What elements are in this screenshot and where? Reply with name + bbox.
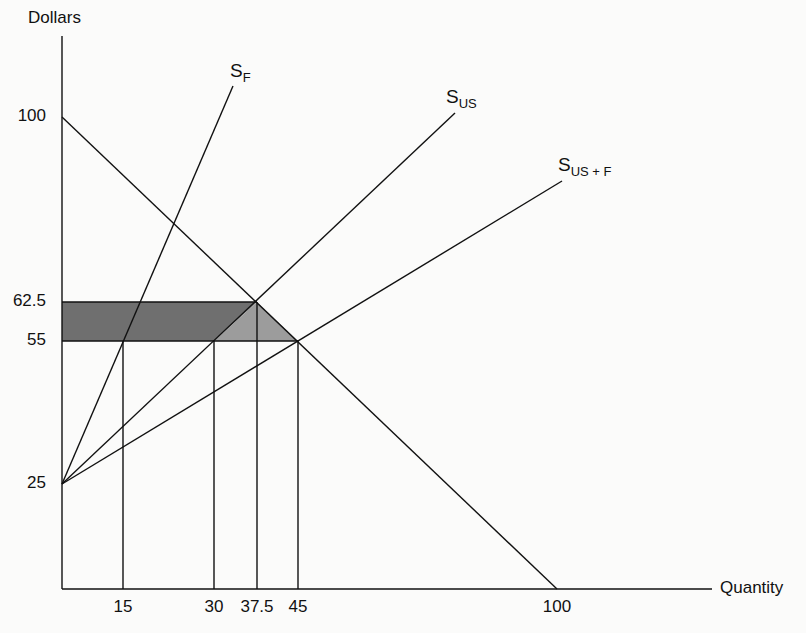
supply-us-foreign-label: SUS + F [558,154,612,179]
supply-us-foreign-label-main: S [558,154,571,175]
y-tick-25: 25 [0,473,46,493]
supply-foreign-label: SF [230,60,251,85]
supply-us-line [62,113,455,484]
y-tick-100: 100 [0,106,46,126]
supply-foreign-line [62,86,233,484]
demand-line [62,117,557,589]
chart-canvas [0,0,806,633]
x-tick-15: 15 [98,597,148,617]
supply-us-label: SUS [446,86,477,111]
y-tick-55: 55 [0,330,46,350]
supply-foreign-label-main: S [230,60,243,81]
y-tick-62-5: 62.5 [0,291,46,311]
x-tick-100: 100 [532,597,582,617]
x-tick-45: 45 [273,597,323,617]
supply-us-foreign-label-sub: US + F [571,164,612,179]
supply-us-label-main: S [446,86,459,107]
x-axis-label: Quantity [720,578,783,598]
supply-foreign-label-sub: F [243,70,251,85]
supply-us-label-sub: US [459,96,477,111]
y-axis-label: Dollars [28,8,81,28]
